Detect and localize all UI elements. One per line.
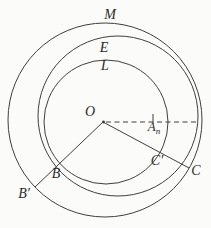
label-point-C-prime: C′ — [151, 154, 163, 168]
label-center-O: O — [85, 105, 95, 119]
center-point-O — [102, 121, 105, 124]
radius-O-C — [103, 122, 189, 168]
label-circle-E: E — [100, 41, 109, 55]
label-point-B-prime: B′ — [18, 187, 30, 201]
label-circle-M: M — [104, 8, 116, 22]
label-point-B: B — [52, 167, 61, 181]
label-circle-L: L — [101, 59, 109, 73]
diagram-canvas — [0, 0, 211, 228]
label-point-C: C — [191, 164, 200, 178]
label-point-An: An — [148, 120, 160, 136]
geometric-diagram: M E L O An C′ C B B′ — [0, 0, 211, 228]
label-An-subscript: n — [156, 126, 161, 136]
label-An-base: A — [148, 119, 156, 134]
circle-E — [38, 36, 198, 196]
